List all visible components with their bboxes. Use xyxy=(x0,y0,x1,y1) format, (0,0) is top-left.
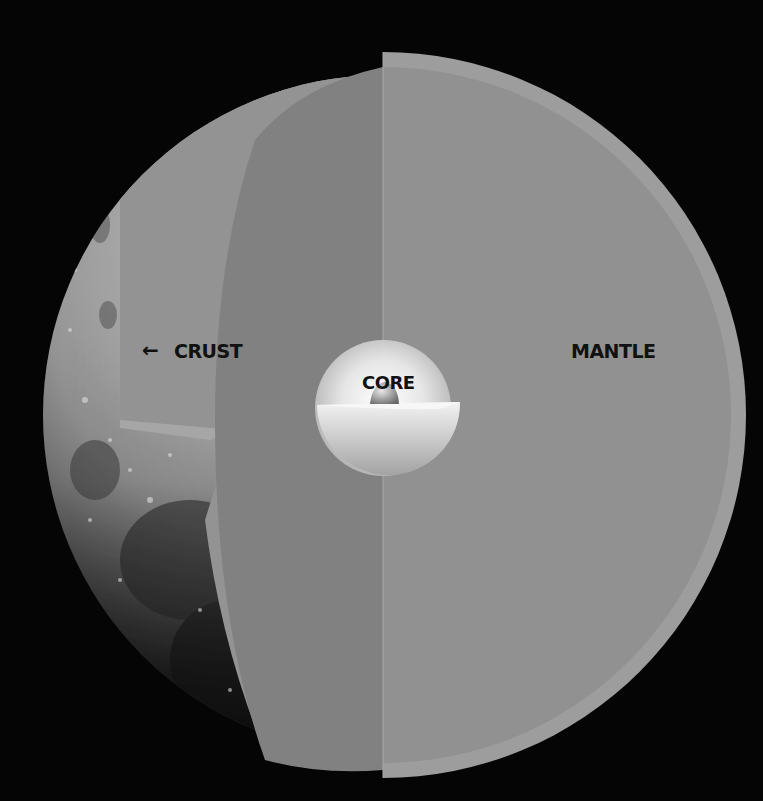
moon-cutaway-illustration xyxy=(0,0,763,801)
moon-diagram: ← CRUST CORE MANTLE xyxy=(0,0,763,801)
core-label: CORE xyxy=(362,372,415,393)
mantle-label: MANTLE xyxy=(571,340,656,362)
crust-label: CRUST xyxy=(174,340,242,362)
crust-arrow-icon: ← xyxy=(142,338,158,362)
